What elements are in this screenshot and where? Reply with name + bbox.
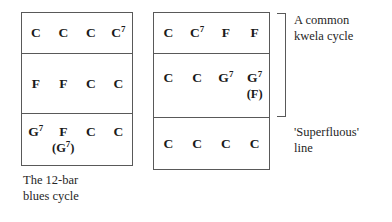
chord-cell: C <box>77 25 105 41</box>
superfluous-line-caption: 'Superfluous' line <box>294 124 392 156</box>
chord-row: C C C C <box>154 118 269 169</box>
blues-cycle-caption: The 12-bar blues cycle <box>23 172 153 204</box>
chord-cell: G7 <box>212 70 241 86</box>
chord-cell: F <box>50 124 78 140</box>
chord-cell: C7 <box>183 25 212 41</box>
chord-cell: C <box>50 25 78 41</box>
chord-cell: C <box>22 25 50 41</box>
chord-cell: C <box>105 124 133 140</box>
chord-cell: C <box>183 136 212 152</box>
chord-row: C C7 F F <box>154 13 269 54</box>
chord-cell-alt <box>183 86 212 101</box>
chord-line-main: G7 F C C <box>22 124 132 140</box>
diagram-canvas: C C C C7 F F C C G7 F C C (G7) <box>0 0 392 222</box>
chord-cell: F <box>212 25 241 41</box>
chord-cell: C <box>240 136 269 152</box>
chord-cell: C <box>77 124 105 140</box>
chord-row: F F C C <box>22 54 132 114</box>
chord-cell: C <box>154 136 183 152</box>
chord-cell: F <box>22 76 50 92</box>
chord-cell-alt <box>77 140 105 155</box>
chord-line-main: C C G7 G7 <box>154 70 269 86</box>
chord-cell: C <box>183 70 212 86</box>
chord-cell-alt <box>154 86 183 101</box>
chord-row: C C C C7 <box>22 13 132 54</box>
chord-cell: C <box>212 136 241 152</box>
kwela-cycle-caption: A common kwela cycle <box>294 12 392 44</box>
chord-cell: G7 <box>22 124 50 140</box>
chord-row: G7 F C C (G7) <box>22 114 132 165</box>
chord-line-main: C C C C7 <box>22 25 132 41</box>
chord-line-main: F F C C <box>22 76 132 92</box>
chord-cell: F <box>240 25 269 41</box>
kwela-cycle-grid: C C7 F F C C G7 G7 (F) C C <box>153 12 270 170</box>
chord-cell-alt <box>22 140 50 155</box>
chord-cell: F <box>50 76 78 92</box>
twelve-bar-blues-grid: C C C C7 F F C C G7 F C C (G7) <box>21 12 133 166</box>
chord-cell-alt: (G7) <box>50 140 78 155</box>
chord-line-main: C C C C <box>154 136 269 152</box>
chord-cell-alt <box>105 140 133 155</box>
chord-line-main: C C7 F F <box>154 25 269 41</box>
chord-cell: G7 <box>240 70 269 86</box>
kwela-cycle-bracket-icon <box>277 13 286 117</box>
chord-line-alternate: (F) <box>154 86 269 101</box>
chord-cell: C <box>154 25 183 41</box>
chord-line-alternate: (G7) <box>22 140 132 155</box>
chord-cell: C7 <box>105 25 133 41</box>
chord-cell: C <box>154 70 183 86</box>
chord-cell-alt <box>212 86 241 101</box>
chord-cell: C <box>77 76 105 92</box>
chord-cell-alt: (F) <box>240 86 269 101</box>
chord-cell: C <box>105 76 133 92</box>
chord-row: C C G7 G7 (F) <box>154 54 269 118</box>
